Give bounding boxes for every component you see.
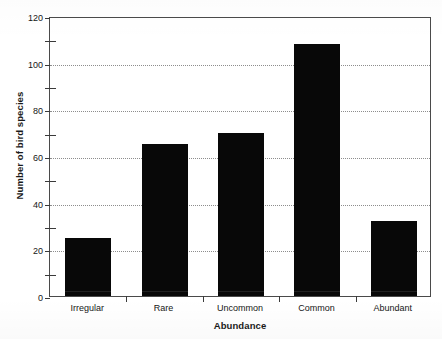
y-minor-tick-mark (45, 275, 56, 276)
y-tick-label: 60 (33, 153, 43, 163)
plot-area: 120100806040200 (49, 17, 431, 297)
y-tick-label: 80 (33, 106, 43, 116)
y-tick-label: 120 (28, 13, 43, 23)
y-tick-mark (45, 111, 50, 112)
y-axis-title: Number of bird species (14, 66, 25, 226)
y-tick-mark (45, 205, 50, 206)
y-minor-tick-mark (45, 228, 56, 229)
x-tick-mark (203, 296, 204, 302)
x-tick-mark (126, 296, 127, 302)
bar-chart-figure: Number of bird species 120100806040200 A… (0, 0, 442, 339)
y-minor-tick-mark (45, 41, 56, 42)
bar (371, 221, 417, 296)
x-category-label: Uncommon (217, 303, 263, 313)
y-gridline (50, 65, 430, 66)
y-tick-label: 100 (28, 60, 43, 70)
y-tick-label: 0 (38, 293, 43, 303)
bar (142, 144, 188, 296)
x-axis-title: Abundance (49, 320, 431, 331)
x-category-label: Irregular (70, 303, 104, 313)
y-minor-tick-mark (45, 88, 56, 89)
x-category-label: Common (298, 303, 335, 313)
y-tick-mark (45, 251, 50, 252)
y-tick-mark (45, 18, 50, 19)
y-minor-tick-mark (45, 135, 56, 136)
bar (294, 44, 340, 296)
bar (65, 238, 111, 296)
y-gridline (50, 111, 430, 112)
y-tick-mark (45, 65, 50, 66)
x-category-label: Rare (154, 303, 174, 313)
y-tick-mark (45, 298, 50, 299)
x-tick-mark (279, 296, 280, 302)
y-tick-label: 40 (33, 200, 43, 210)
bar (218, 133, 264, 296)
y-tick-label: 20 (33, 246, 43, 256)
y-tick-mark (45, 158, 50, 159)
x-category-label: Abundant (374, 303, 413, 313)
x-tick-mark (356, 296, 357, 302)
y-minor-tick-mark (45, 181, 56, 182)
